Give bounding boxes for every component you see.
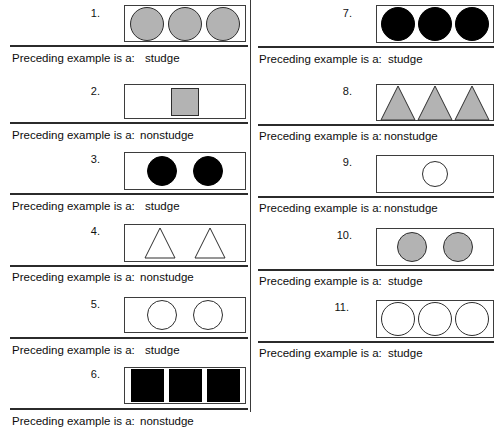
item-number: 9.	[322, 157, 352, 168]
answer-prompt-label: Preceding example is a:	[259, 275, 382, 288]
shape-circle	[397, 232, 427, 262]
shape-circle	[455, 302, 489, 336]
stimulus-box	[376, 155, 494, 193]
answer-value: studge	[388, 275, 423, 288]
shape-circle	[381, 302, 415, 336]
stimulus-box	[376, 84, 494, 121]
stimulus-box	[376, 300, 494, 338]
answer-value: studge	[388, 53, 423, 66]
item-number: 8.	[322, 86, 352, 97]
answer-prompt-label: Preceding example is a:	[259, 53, 382, 66]
shape-row	[377, 229, 493, 265]
answer-rule	[258, 341, 494, 343]
answer-prompt-label: Preceding example is a:	[259, 202, 382, 215]
answer-prompt-label: Preceding example is a:	[259, 130, 382, 143]
shape-triangle	[454, 85, 490, 121]
answer-rule	[258, 124, 494, 126]
answer-value: studge	[388, 347, 423, 360]
shape-row	[377, 6, 493, 42]
answer-rule	[258, 46, 494, 48]
answer-rule	[258, 269, 494, 271]
item-number: 7.	[322, 8, 352, 19]
shape-circle	[418, 302, 452, 336]
right-column: 7.Preceding example is a:studge8.Precedi…	[0, 0, 497, 433]
shape-circle	[443, 232, 473, 262]
item-number: 10.	[322, 230, 352, 241]
answer-prompt-label: Preceding example is a:	[259, 347, 382, 360]
shape-triangle	[380, 85, 416, 121]
shape-row	[377, 301, 493, 337]
answer-value: nonstudge	[384, 202, 438, 215]
shape-circle	[422, 161, 448, 187]
shape-circle	[381, 7, 415, 41]
worksheet: 1.Preceding example is a:studge2.Precedi…	[0, 0, 497, 433]
answer-rule	[258, 196, 494, 198]
stimulus-box	[376, 228, 494, 266]
stimulus-box	[376, 5, 494, 43]
shape-row	[377, 85, 493, 120]
shape-circle	[455, 7, 489, 41]
shape-row	[377, 156, 493, 192]
shape-circle	[418, 7, 452, 41]
shape-triangle	[417, 85, 453, 121]
answer-value: nonstudge	[384, 130, 438, 143]
item-number: 11.	[319, 302, 349, 313]
